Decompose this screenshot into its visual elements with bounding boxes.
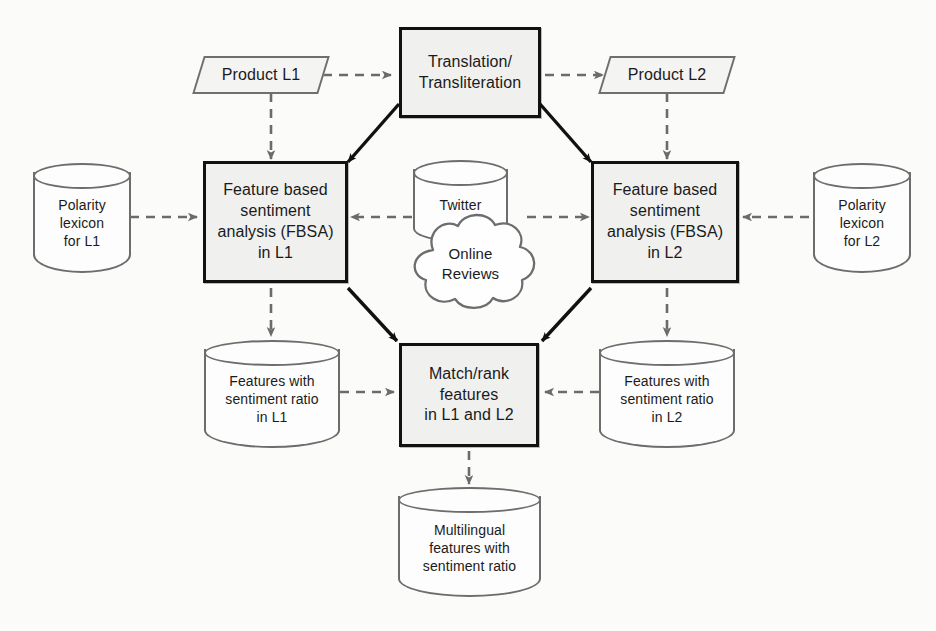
node-label: Features with sentiment ratio in L2 [620,372,713,427]
node-label: Polarity lexicon for L1 [58,196,105,251]
edge-fbsal2-matchrank-solid [542,288,591,341]
edge-fbsal1-matchrank-solid [348,288,397,341]
node-label: Multilingual features with sentiment rat… [423,521,516,576]
node-label: Product L2 [628,65,706,86]
cylinder-cap [413,160,508,186]
diagram-canvas: Product L1 Translation/ Transliteration … [0,0,936,631]
node-label: Product L1 [222,65,300,86]
node-match-rank[interactable]: Match/rank features in L1 and L2 [399,343,539,447]
node-label: Translation/ Transliteration [419,52,521,94]
node-features-l1[interactable]: Features with sentiment ratio in L1 [204,340,340,448]
node-product-l1[interactable]: Product L1 [198,56,324,94]
node-label: Feature based sentiment analysis (FBSA) … [217,180,333,263]
node-label: Online Reviews [442,244,499,283]
node-label: Twitter [440,196,482,214]
node-translation[interactable]: Translation/ Transliteration [399,27,541,118]
node-label: Match/rank features in L1 and L2 [424,364,513,426]
cylinder-cap [204,340,340,366]
cylinder-cap [33,163,131,189]
node-online-reviews[interactable]: Online Reviews [398,208,543,313]
node-fbsa-l1[interactable]: Feature based sentiment analysis (FBSA) … [203,161,348,283]
node-multilingual-features[interactable]: Multilingual features with sentiment rat… [398,487,541,597]
node-polarity-lexicon-l2[interactable]: Polarity lexicon for L2 [813,163,911,273]
node-fbsa-l2[interactable]: Feature based sentiment analysis (FBSA) … [591,161,739,283]
edge-translation-fbsal1-solid [348,104,399,162]
cylinder-cap [599,340,735,366]
node-polarity-lexicon-l1[interactable]: Polarity lexicon for L1 [33,163,131,273]
node-label: Feature based sentiment analysis (FBSA) … [607,180,723,263]
node-features-l2[interactable]: Features with sentiment ratio in L2 [599,340,735,448]
edge-translation-fbsal2-solid [540,104,591,162]
node-product-l2[interactable]: Product L2 [604,56,730,94]
cylinder-cap [813,163,911,189]
node-label: Polarity lexicon for L2 [838,196,885,251]
node-label: Features with sentiment ratio in L1 [225,372,318,427]
cylinder-cap [398,487,541,513]
